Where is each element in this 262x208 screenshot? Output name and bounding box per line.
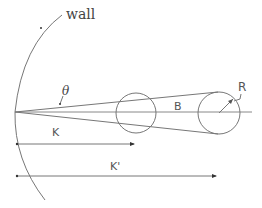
r-label: R xyxy=(238,81,246,93)
theta-label: θ xyxy=(62,85,69,97)
dimension-k-prime-start-dot xyxy=(16,175,18,177)
dimension-k-prime-arrowhead xyxy=(212,174,217,178)
k-prime-label: K' xyxy=(110,161,120,172)
dimension-k-start-dot xyxy=(16,143,18,145)
wall-leader-dot xyxy=(40,27,42,29)
wall-arc xyxy=(15,15,62,200)
theta-leader-dot xyxy=(59,103,61,105)
wall-label: wall xyxy=(66,7,95,21)
b-label: B xyxy=(174,101,182,112)
circle-near xyxy=(116,93,156,133)
k-label: K xyxy=(52,127,59,138)
geometry-diagram xyxy=(0,0,262,208)
dimension-k-arrowhead xyxy=(130,142,135,146)
